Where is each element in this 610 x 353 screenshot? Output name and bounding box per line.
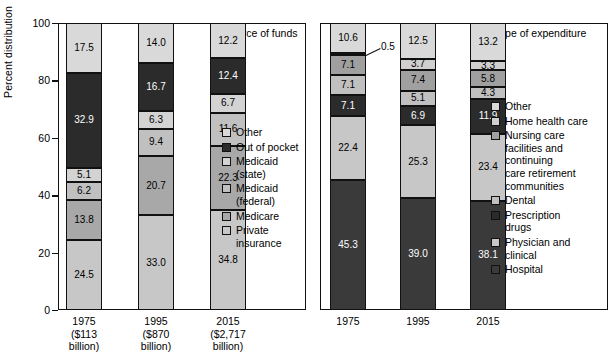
segment-value-label: 32.9 [74,115,93,125]
segment-value-label: 6.2 [77,186,91,196]
bar-segment: 7.4 [401,70,435,91]
bar-segment: 7.1 [331,55,365,75]
segment-value-label: 7.4 [411,75,425,85]
bar-segment: 17.5 [67,23,101,73]
segment-value-label: 12.4 [218,71,237,81]
legend-type-of-expenditure: OtherHome health careNursing care facili… [491,100,607,278]
legend-label: Dental [505,194,535,207]
legend-label: Home health care [505,115,588,128]
legend-swatch-icon [222,128,231,137]
bar-segment: 14.0 [139,23,173,63]
stacked-bar: 39.025.36.95.17.43.712.5 [400,23,436,310]
bar-segment: 20.7 [139,156,173,215]
legend-swatch-icon [222,184,231,193]
legend-swatch-icon [491,211,500,220]
segment-value-label: 25.3 [408,157,427,167]
legend-label: Hospital [505,263,543,276]
segment-value-label: 20.7 [146,181,165,191]
legend-item[interactable]: Medicaid (state) [222,155,308,180]
bar-segment: 4.3 [471,87,505,99]
bar-segment: 13.2 [471,23,505,61]
bar-segment: 13.8 [67,200,101,240]
legend-label: Prescription drugs [505,209,560,234]
bar-segment: 25.3 [401,125,435,198]
segment-value-label: 3.7 [411,59,425,69]
segment-value-label: 5.8 [481,74,495,84]
bar-segment: 7.1 [331,95,365,115]
legend-item[interactable]: Dental [491,194,607,207]
legend-swatch-icon [491,238,500,247]
bar-segment: 3.7 [401,59,435,70]
chart-panel-type-of-expenditure: Type of expenditure 45.322.47.17.17.10.5… [310,0,610,346]
segment-value-label: 7.1 [341,80,355,90]
bar-segment: 12.2 [211,23,245,58]
legend-swatch-icon [222,212,231,221]
bar-segment: 3.3 [471,61,505,70]
segment-value-label: 34.8 [218,255,237,265]
y-axis-tick-label: 100 [24,18,50,28]
legend-swatch-icon [491,117,500,126]
bar-segment: 7.1 [331,75,365,95]
bar-segment: 22.4 [331,116,365,180]
legend-label: Nursing care facilities and continuing c… [505,129,576,192]
segment-value-label: 6.3 [149,115,163,125]
bar-segment: 33.0 [139,215,173,310]
legend-item[interactable]: Medicaid (federal) [222,182,308,207]
segment-value-label: 7.1 [341,60,355,70]
legend-item[interactable]: Home health care [491,115,607,128]
segment-value-label: 33.0 [146,258,165,268]
y-axis-tick-label: 60 [24,133,50,143]
annotation-label-0-5: 0.5 [381,41,395,52]
stacked-bar: 33.020.79.46.316.714.0 [138,23,174,310]
segment-value-label: 5.1 [411,93,425,103]
y-axis-tick-mark [52,310,58,311]
bar-segment: 12.5 [401,23,435,59]
bar-segment: 5.1 [401,91,435,106]
legend-source-of-funds: OtherOut of pocketMedicaid (state)Medica… [222,126,308,251]
legend-item[interactable]: Prescription drugs [491,209,607,234]
segment-value-label: 45.3 [338,240,357,250]
segment-value-label: 13.2 [478,37,497,47]
bar-segment: 24.5 [67,240,101,310]
legend-item[interactable]: Private insurance [222,224,308,249]
y-axis-tick-label: 20 [24,248,50,258]
bar-segment: 6.3 [139,111,173,129]
legend-swatch-icon [491,131,500,140]
y-axis-tick-label: 0 [24,305,50,315]
bar-segment: 45.3 [331,180,365,310]
legend-item[interactable]: Out of pocket [222,141,308,154]
bar-segment: 6.7 [211,94,245,113]
x-axis-category-label: 2015 [456,315,520,328]
segment-value-label: 5.1 [77,170,91,180]
y-axis-label: Percent distribution [2,0,14,112]
legend-swatch-icon [491,196,500,205]
segment-value-label: 39.0 [408,249,427,259]
bar-segment: 32.9 [67,73,101,167]
legend-item[interactable]: Other [491,100,607,113]
segment-value-label: 10.6 [338,33,357,43]
legend-item[interactable]: Other [222,126,308,139]
legend-item[interactable]: Physician and clinical [491,236,607,261]
segment-value-label: 12.5 [408,36,427,46]
legend-label: Physician and clinical [505,236,570,261]
legend-item[interactable]: Nursing care facilities and continuing c… [491,129,607,192]
legend-item[interactable]: Hospital [491,263,607,276]
legend-swatch-icon [491,265,500,274]
legend-label: Other [505,100,531,113]
panel-title-type-of-expenditure: Type of expenditure [494,27,586,39]
segment-value-label: 12.2 [218,36,237,46]
segment-value-label: 3.3 [481,61,495,71]
segment-value-label: 22.4 [338,143,357,153]
legend-swatch-icon [491,102,500,111]
chart-panel-source-of-funds: Percent distribution 020406080100 Source… [0,0,310,346]
segment-value-label: 9.4 [149,137,163,147]
legend-item[interactable]: Medicare [222,210,308,223]
segment-value-label: 16.7 [146,82,165,92]
x-axis-category-label: 2015 ($2,717 billion) [196,315,260,353]
legend-label: Private insurance [236,224,282,249]
bar-segment: 5.1 [67,168,101,183]
bar-segment: 16.7 [139,63,173,111]
segment-value-label: 17.5 [74,43,93,53]
legend-label: Out of pocket [236,141,298,154]
